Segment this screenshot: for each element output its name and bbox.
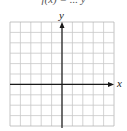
axes: x y: [10, 9, 122, 128]
x-axis-label: x: [116, 77, 122, 89]
y-axis-label: y: [58, 9, 64, 21]
coordinate-plane: x y: [0, 0, 127, 131]
x-axis-arrow-icon: [108, 82, 114, 87]
y-axis-arrow-icon: [60, 22, 65, 28]
